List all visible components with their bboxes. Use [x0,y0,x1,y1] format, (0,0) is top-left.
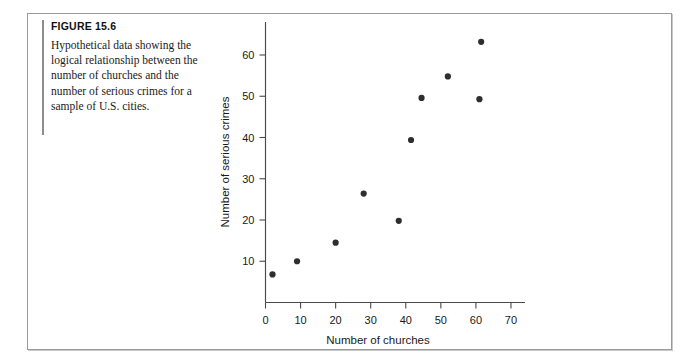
figure-number-label: FIGURE 15.6 [51,20,214,32]
figure-caption-block: FIGURE 15.6 Hypothetical data showing th… [42,20,214,135]
figure-caption-text: Hypothetical data showing the logical re… [51,38,214,114]
